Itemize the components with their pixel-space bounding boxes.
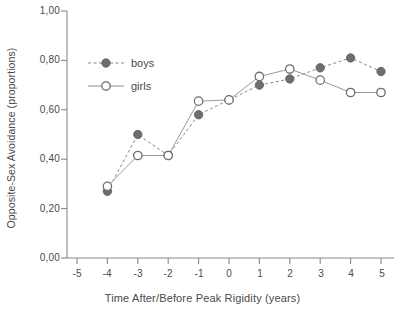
plot-canvas bbox=[0, 0, 405, 316]
x-tick-marks bbox=[77, 258, 381, 264]
series-markers bbox=[103, 54, 385, 196]
legend-label-girls: girls bbox=[131, 80, 151, 92]
y-tick-marks bbox=[61, 11, 67, 258]
series-lines bbox=[107, 58, 381, 191]
chart-figure: Opposite-Sex Avoidance (proportions) 1,0… bbox=[0, 0, 405, 316]
axis-lines bbox=[67, 11, 394, 258]
x-axis-title: Time After/Before Peak Rigidity (years) bbox=[0, 292, 405, 304]
legend-marks bbox=[88, 59, 124, 90]
legend-label-boys: boys bbox=[131, 57, 154, 69]
